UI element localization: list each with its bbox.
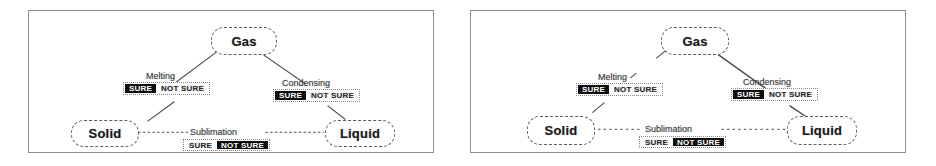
diagram-canvas-right: Gas Solid Liquid Melting SURE NOT SURE C…	[471, 11, 905, 152]
figure-root: Gas Solid Liquid Melting SURE NOT SURE C…	[0, 0, 936, 166]
toggle-melting-option-not-sure[interactable]: NOT SURE	[157, 84, 208, 93]
toggle-sublimation[interactable]: SURE NOT SURE	[639, 136, 726, 148]
connector-gas-solid	[176, 52, 216, 82]
diagram-canvas-left: Gas Solid Liquid Melting SURE NOT SURE C…	[29, 11, 433, 152]
connector-gas-solid-fragment-lower	[592, 103, 604, 113]
node-liquid[interactable]: Liquid	[325, 120, 395, 147]
transition-label-melting: Melting	[146, 71, 175, 81]
node-gas-label: Gas	[231, 34, 256, 49]
toggle-sublimation-option-not-sure[interactable]: NOT SURE	[217, 141, 268, 149]
connector-gas-liquid-lower	[328, 106, 346, 120]
node-liquid-label: Liquid	[340, 126, 380, 141]
toggle-condensing-option-not-sure[interactable]: NOT SURE	[307, 91, 358, 100]
node-solid[interactable]: Solid	[71, 120, 139, 147]
node-solid-label: Solid	[89, 126, 122, 141]
node-liquid-label: Liquid	[802, 123, 842, 138]
connector-gas-solid-lower	[147, 102, 174, 122]
toggle-sublimation[interactable]: SURE NOT SURE	[183, 139, 270, 151]
transition-label-sublimation: Sublimation	[190, 127, 237, 137]
toggle-melting[interactable]: SURE NOT SURE	[576, 83, 663, 96]
toggle-condensing-option-sure[interactable]: SURE	[275, 91, 306, 100]
toggle-condensing-option-not-sure[interactable]: NOT SURE	[765, 90, 816, 99]
node-liquid[interactable]: Liquid	[787, 116, 857, 145]
diagram-panel-right: Gas Solid Liquid Melting SURE NOT SURE C…	[470, 10, 906, 153]
transition-label-sublimation: Sublimation	[645, 124, 692, 134]
toggle-melting-option-sure[interactable]: SURE	[578, 85, 609, 94]
node-solid-label: Solid	[545, 123, 578, 138]
toggle-condensing[interactable]: SURE NOT SURE	[731, 88, 818, 101]
transition-label-condensing: Condensing	[743, 77, 791, 87]
transition-label-melting: Melting	[598, 72, 627, 82]
toggle-melting[interactable]: SURE NOT SURE	[123, 82, 210, 95]
node-gas-label: Gas	[682, 34, 707, 49]
toggle-sublimation-option-sure[interactable]: SURE	[641, 138, 672, 146]
node-gas[interactable]: Gas	[211, 27, 277, 55]
diagram-panel-left: Gas Solid Liquid Melting SURE NOT SURE C…	[28, 10, 434, 153]
toggle-condensing-option-sure[interactable]: SURE	[733, 90, 764, 99]
toggle-melting-option-not-sure[interactable]: NOT SURE	[610, 85, 661, 94]
node-solid[interactable]: Solid	[527, 116, 595, 145]
node-gas[interactable]: Gas	[661, 27, 729, 55]
toggle-melting-option-sure[interactable]: SURE	[125, 84, 156, 93]
toggle-condensing[interactable]: SURE NOT SURE	[273, 89, 360, 102]
toggle-sublimation-option-sure[interactable]: SURE	[185, 141, 216, 149]
toggle-sublimation-option-not-sure[interactable]: NOT SURE	[673, 138, 724, 146]
transition-label-condensing: Condensing	[282, 78, 330, 88]
connector-gas-solid-fragment-mid	[630, 73, 636, 78]
